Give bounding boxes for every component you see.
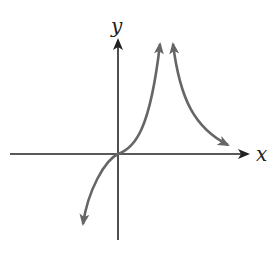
x-axis-label: x — [256, 142, 267, 166]
curve-left-branch — [83, 44, 160, 224]
curve-right-branch — [173, 44, 228, 145]
function-graph: x y — [0, 0, 272, 271]
y-axis-label: y — [110, 14, 123, 38]
